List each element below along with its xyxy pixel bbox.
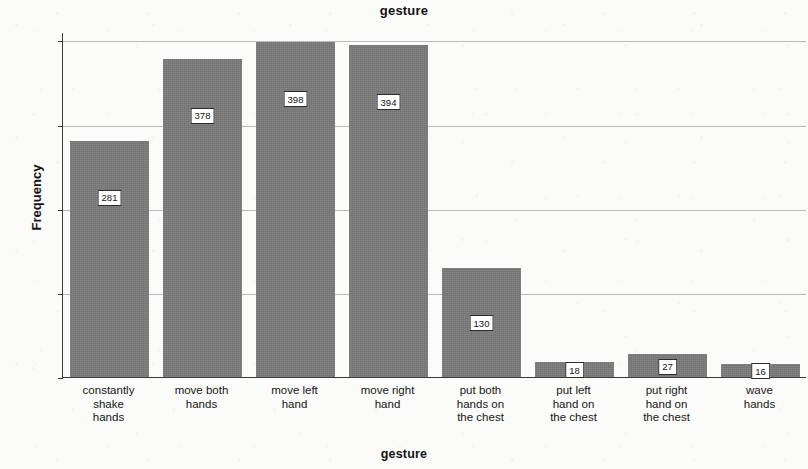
bar-value-label: 394 [376, 94, 401, 110]
x-axis-title: gesture [0, 447, 808, 461]
x-category-label: put both hands on the chest [434, 384, 527, 425]
bar-chart: gesture Frequency 0100200300400 28137839… [0, 0, 808, 469]
bar [70, 141, 149, 377]
x-category-label: put left hand on the chest [527, 384, 620, 425]
x-category-label: move right hand [341, 384, 434, 411]
y-axis-title: Frequency [29, 138, 44, 258]
bar-value-label: 27 [658, 359, 678, 375]
plot-area: 0100200300400 281378398394130182716 [62, 33, 806, 378]
y-tick-mark [58, 294, 63, 295]
x-category-label: constantly shake hands [62, 384, 155, 425]
y-tick-mark [58, 210, 63, 211]
bar-value-label: 281 [97, 190, 122, 206]
chart-title: gesture [0, 3, 808, 18]
y-tick-mark [58, 126, 63, 127]
x-category-label: put right hand on the chest [620, 384, 713, 425]
x-category-label: wave hands [713, 384, 806, 411]
y-tick-mark [58, 378, 63, 379]
bar-value-label: 130 [469, 315, 494, 331]
bar-value-label: 398 [283, 91, 308, 107]
gridline [63, 41, 806, 42]
bar-value-label: 18 [565, 362, 585, 378]
bar [163, 59, 242, 377]
bar-value-label: 378 [190, 108, 215, 124]
x-category-label: move both hands [155, 384, 248, 411]
y-tick-mark [58, 41, 63, 42]
x-category-label: move left hand [248, 384, 341, 411]
bar-value-label: 16 [751, 363, 771, 379]
